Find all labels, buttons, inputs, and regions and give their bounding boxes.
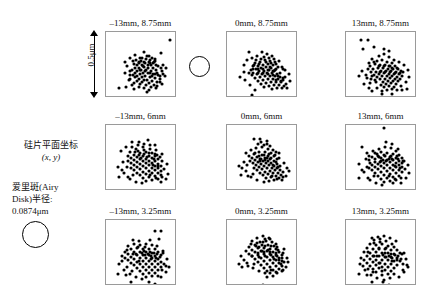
scatter-panel-label: 0mm, 3.25mm <box>235 206 288 216</box>
scatter-panel-label: –13mm, 6mm <box>115 111 166 121</box>
scatter-panel-label: –13mm, 8.75mm <box>110 18 172 28</box>
scatter-panel-2: 0mm, 8.75mm <box>226 31 297 97</box>
legend-airy-disk: 爱里斑(Airy Disk)半径: 0.0874μm <box>12 181 92 217</box>
scatter-points <box>106 125 175 189</box>
scatter-panel-3: 13mm, 8.75mm <box>345 31 416 97</box>
scatter-panel-box <box>105 124 176 190</box>
legend-wafer-line2: (x, y) <box>8 151 94 163</box>
scatter-panel-8: 0mm, 3.25mm <box>226 219 297 285</box>
scatter-panel-7: –13mm, 3.25mm <box>105 219 176 285</box>
scatter-panel-box <box>226 219 297 285</box>
scatter-panel-box <box>226 124 297 190</box>
scatter-points <box>106 220 175 284</box>
scatter-points <box>346 32 415 96</box>
scatter-panel-9: 13mm, 3.25mm <box>345 219 416 285</box>
scatter-panel-label: 13mm, 6mm <box>357 111 403 121</box>
scatter-panel-box <box>345 219 416 285</box>
scatter-points <box>346 125 415 189</box>
scatter-panel-box <box>345 124 416 190</box>
scatter-panel-1: –13mm, 8.75mm <box>105 31 176 97</box>
scatter-panel-box <box>105 219 176 285</box>
scatter-panel-5: 0mm, 6mm <box>226 124 297 190</box>
scatter-panel-box <box>345 31 416 97</box>
scatter-panel-label: 13mm, 3.25mm <box>352 206 409 216</box>
airy-disk-legend-circle <box>22 221 49 248</box>
scatter-panel-label: 0mm, 6mm <box>241 111 283 121</box>
scatter-points <box>346 220 415 284</box>
legend-airy-line3: 0.0874μm <box>12 205 92 217</box>
scatter-panel-label: 0mm, 8.75mm <box>235 18 288 28</box>
scatter-panel-label: 13mm, 8.75mm <box>352 18 409 28</box>
scatter-panel-box <box>226 31 297 97</box>
scale-bar-label: 0.5μm <box>86 29 96 81</box>
legend-wafer-coords: 硅片平面坐标 (x, y) <box>8 139 94 163</box>
scatter-panel-label: –13mm, 3.25mm <box>110 206 172 216</box>
scatter-points <box>106 32 175 96</box>
legend-wafer-line1: 硅片平面坐标 <box>8 139 94 151</box>
scatter-panel-4: –13mm, 6mm <box>105 124 176 190</box>
scatter-points <box>227 125 296 189</box>
airy-disk-reference-circle <box>189 56 210 77</box>
scatter-points <box>227 32 296 96</box>
legend-airy-line1: 爱里斑(Airy <box>12 181 92 193</box>
scatter-points <box>227 220 296 284</box>
scatter-panel-6: 13mm, 6mm <box>345 124 416 190</box>
figure-root: 0.5μm 硅片平面坐标 (x, y) 爱里斑(Airy Disk)半径: 0.… <box>0 0 422 294</box>
scale-bar: 0.5μm <box>78 30 104 98</box>
scatter-panel-box <box>105 31 176 97</box>
legend-airy-line2: Disk)半径: <box>12 193 92 205</box>
scale-bar-arrow-down-icon <box>90 92 98 98</box>
